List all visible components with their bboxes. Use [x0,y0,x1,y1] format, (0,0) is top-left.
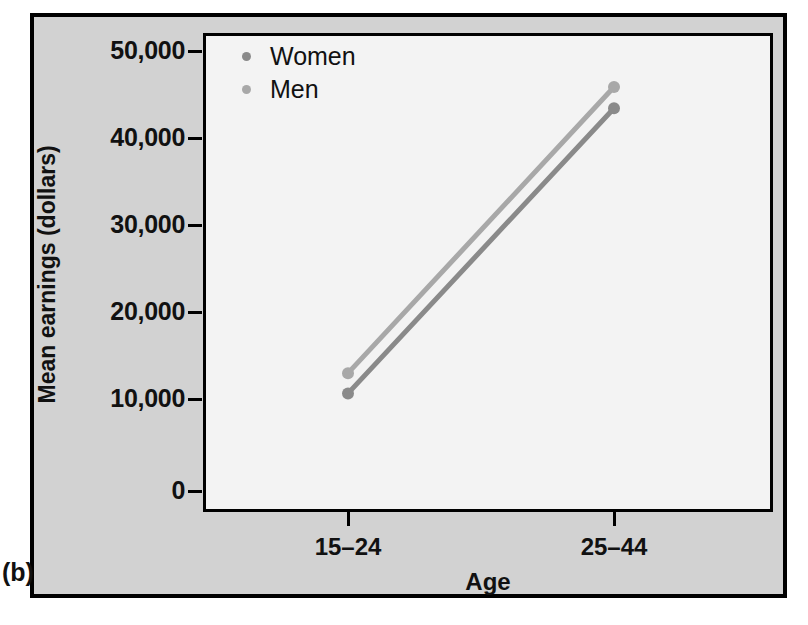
x-tick-mark-15-24 [347,512,350,526]
legend-entry-men: Men [222,73,442,106]
legend-label-women: Women [270,44,356,69]
figure-panel-b: 50,000 40,000 30,000 20,000 10,000 0 Mea… [0,0,808,625]
panel-label: (b) [2,558,34,587]
y-tick-mark-40000 [188,137,202,140]
legend-marker-women-wrap [222,52,270,61]
legend-label-men: Men [270,77,319,102]
legend-dot-icon-men [242,85,251,94]
y-axis-title: Mean earnings (dollars) [34,164,61,404]
y-tick-label-10000: 10,000 [110,384,185,413]
x-tick-label-15-24: 15–24 [315,533,382,561]
y-tick-label-40000: 40,000 [110,123,185,152]
y-tick-label-0: 0 [171,476,185,505]
y-tick-label-50000: 50,000 [110,36,185,65]
chart-legend: Women Men [222,40,442,106]
y-tick-label-20000: 20,000 [110,297,185,326]
y-tick-label-30000: 30,000 [110,210,185,239]
y-tick-mark-0 [188,490,202,493]
y-axis-tick-labels: 50,000 40,000 30,000 20,000 10,000 0 [60,0,185,625]
y-tick-mark-10000 [188,398,202,401]
x-axis-title: Age [203,568,773,596]
y-tick-mark-50000 [188,50,202,53]
legend-entry-women: Women [222,40,442,73]
y-tick-mark-20000 [188,311,202,314]
y-tick-mark-30000 [188,224,202,227]
legend-dot-icon-women [242,52,251,61]
x-tick-label-25-44: 25–44 [581,533,648,561]
x-tick-mark-25-44 [613,512,616,526]
legend-marker-men-wrap [222,85,270,94]
